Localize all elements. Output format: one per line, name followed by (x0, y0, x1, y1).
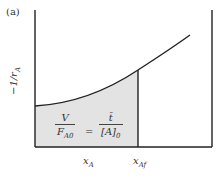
x-label-xaf: xAf (133, 155, 146, 169)
fraction-denominator: [A]0 (99, 124, 123, 140)
levenspiel-plot (0, 0, 224, 178)
y-axis-label-sub: A (14, 67, 22, 72)
den-sub: A0 (64, 132, 74, 140)
fraction-numerator: t̄ (107, 112, 115, 124)
x-label-xa: xA (83, 155, 94, 169)
panel-label: (a) (6, 6, 20, 17)
den-sub: 0 (116, 132, 120, 140)
x-label-sub: Af (139, 161, 147, 169)
den-main: [A] (101, 126, 116, 137)
y-axis-label: −1/rA (8, 67, 22, 95)
time-concentration-fraction: t̄ [A]0 (99, 112, 123, 140)
volume-flow-fraction: V FA0 (55, 112, 75, 140)
equals-sign: = (85, 126, 93, 137)
y-axis-label-main: −1/r (8, 72, 19, 95)
fraction-denominator: FA0 (55, 124, 75, 140)
den-main: F (57, 126, 64, 137)
x-label-sub: A (89, 161, 94, 169)
fraction-numerator: V (60, 112, 71, 124)
